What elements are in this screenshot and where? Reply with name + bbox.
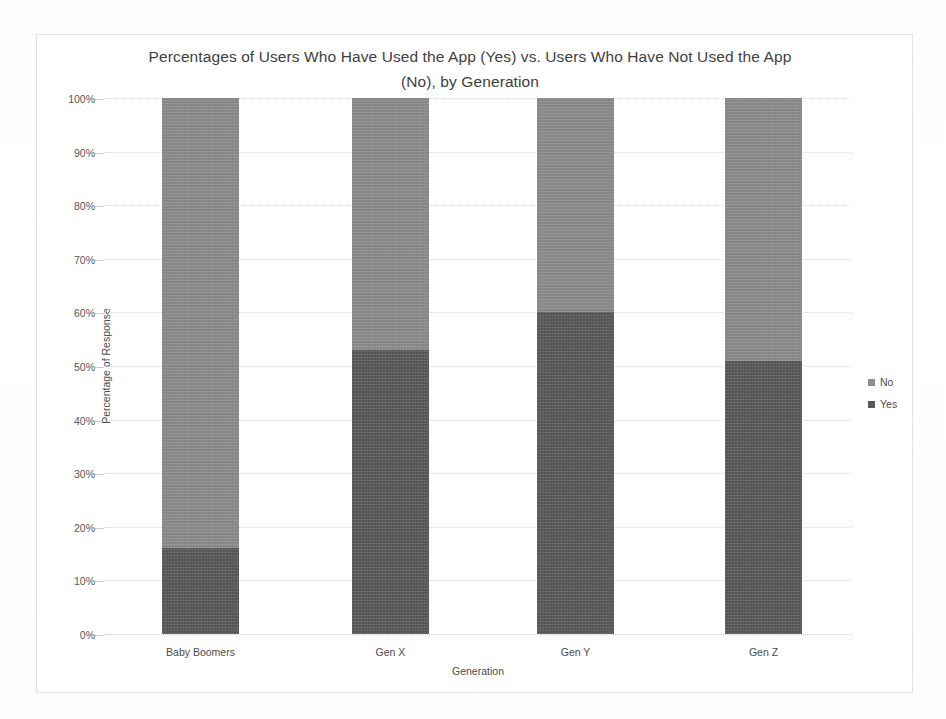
bar-segment-no[interactable] [352,98,429,350]
x-tick-label: Baby Boomers [166,646,235,658]
y-tick-mark [95,206,104,207]
plot-area: 0%10%20%30%40%50%60%70%80%90%100%Baby Bo… [104,98,852,634]
y-tick-mark [95,528,104,529]
y-tick-mark [95,367,104,368]
y-tick-mark [95,153,104,154]
y-tick-label: 20% [74,522,95,534]
y-tick-label: 30% [74,468,95,480]
legend-swatch-icon [868,379,875,386]
bar-segment-no[interactable] [537,98,614,312]
x-axis-title: Generation [104,665,852,677]
y-tick-mark [95,99,104,100]
y-tick-mark [95,581,104,582]
x-tick-label: Gen X [376,646,406,658]
chart-legend: NoYes [868,371,897,415]
legend-item-yes[interactable]: Yes [868,393,897,415]
chart-title-line-2: (No), by Generation [90,69,850,94]
y-tick-label: 100% [68,93,95,105]
bar-group[interactable]: Baby Boomers [162,98,239,634]
legend-item-no[interactable]: No [868,371,897,393]
legend-label: Yes [880,398,897,410]
y-tick-mark [95,313,104,314]
y-tick-label: 10% [74,575,95,587]
bar-segment-no[interactable] [162,98,239,548]
x-tick-label: Gen Y [561,646,591,658]
chart-title-line-1: Percentages of Users Who Have Used the A… [90,44,850,69]
y-tick-mark [95,474,104,475]
y-tick-label: 70% [74,254,95,266]
y-tick-mark [95,260,104,261]
y-tick-label: 0% [80,629,95,641]
bar-segment-yes[interactable] [162,548,239,634]
legend-label: No [880,376,893,388]
y-tick-label: 80% [74,200,95,212]
y-tick-mark [95,421,104,422]
bar-group[interactable]: Gen Y [537,98,614,634]
legend-swatch-icon [868,401,875,408]
bar-segment-no[interactable] [725,98,802,361]
x-tick-label: Gen Z [749,646,778,658]
bar-segment-yes[interactable] [725,361,802,634]
bar-segment-yes[interactable] [537,312,614,634]
bar-group[interactable]: Gen Z [725,98,802,634]
chart-title: Percentages of Users Who Have Used the A… [90,44,850,94]
y-tick-label: 50% [74,361,95,373]
y-tick-label: 40% [74,415,95,427]
y-tick-label: 90% [74,147,95,159]
y-tick-label: 60% [74,307,95,319]
bar-group[interactable]: Gen X [352,98,429,634]
y-tick-mark [95,635,104,636]
gridline-0%: 0% [104,634,852,636]
bar-segment-yes[interactable] [352,350,429,634]
